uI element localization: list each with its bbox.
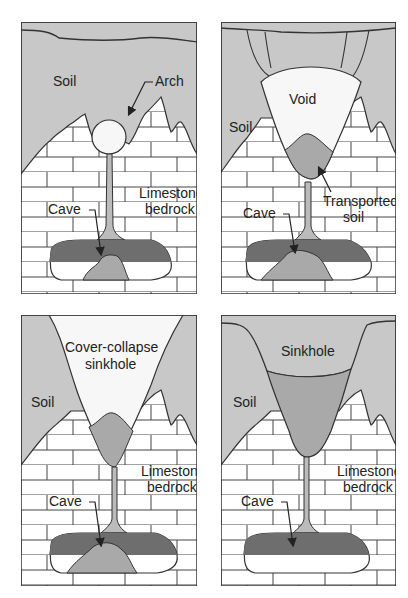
label-soil: Soil <box>233 394 256 410</box>
label-sinkhole: sinkhole <box>85 356 137 372</box>
panel-void-stage: Void Soil Transported soil Cave <box>221 22 396 294</box>
panel-sinkhole-stage: Sinkhole Soil Limestone bedrock Cave <box>221 315 396 586</box>
label-bedrock: bedrock <box>145 201 196 217</box>
label-sinkhole: Sinkhole <box>281 343 335 359</box>
label-bedrock: bedrock <box>343 479 394 495</box>
label-limestone: Limestone <box>141 463 197 479</box>
label-cave: Cave <box>241 493 274 509</box>
label-transported: Transported <box>323 193 396 209</box>
label-cave: Cave <box>48 201 81 217</box>
panel-cover-collapse-stage: Cover-collapse sinkhole Soil Limestone b… <box>21 315 197 586</box>
label-cave: Cave <box>49 493 82 509</box>
arch-void <box>92 120 126 154</box>
label-soil: Soil <box>31 394 54 410</box>
label-transported-soil: soil <box>343 209 364 225</box>
label-void: Void <box>289 91 316 107</box>
label-arch: Arch <box>155 73 184 89</box>
label-cover-collapse: Cover-collapse <box>65 339 159 355</box>
label-cave: Cave <box>243 205 276 221</box>
label-soil: Soil <box>53 73 76 89</box>
label-limestone: Limestone <box>337 463 396 479</box>
panel-arch-stage: Soil Arch Limestone bedrock Cave <box>21 22 197 294</box>
label-limestone: Limestone <box>139 185 197 201</box>
label-bedrock: bedrock <box>147 479 197 495</box>
label-soil: Soil <box>229 119 252 135</box>
